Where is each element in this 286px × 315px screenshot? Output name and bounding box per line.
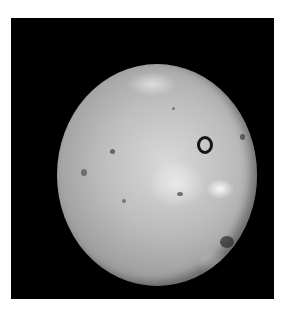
dark-spot — [122, 199, 126, 203]
dark-spot — [220, 236, 234, 248]
dark-spot — [240, 134, 245, 140]
dark-spot — [110, 149, 115, 154]
moon-disc — [57, 64, 257, 286]
dark-ring-feature — [197, 136, 213, 154]
dark-spot — [177, 192, 183, 196]
image-frame — [11, 18, 274, 299]
dark-spot — [81, 169, 87, 176]
dark-spot — [172, 107, 175, 110]
